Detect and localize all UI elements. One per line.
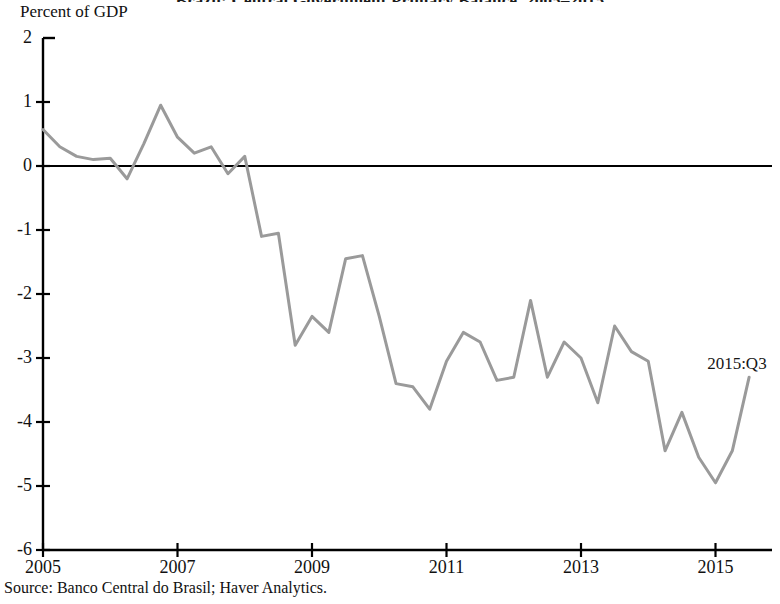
y-axis-tick-label: -6 [0, 540, 32, 558]
y-axis-tick-label: 0 [0, 156, 32, 174]
y-axis-tick-label: 2 [0, 28, 32, 46]
x-axis-tick-label: 2009 [276, 558, 348, 576]
x-axis-tick-label: 2005 [7, 558, 79, 576]
x-axis-tick-label: 2015 [680, 558, 752, 576]
y-axis-tick-label: -5 [0, 476, 32, 494]
y-axis-tick-label: -2 [0, 284, 32, 302]
x-axis-tick-label: 2013 [545, 558, 617, 576]
y-axis-tick-label: -4 [0, 412, 32, 430]
x-axis-tick-label: 2007 [142, 558, 214, 576]
plot-area [0, 0, 780, 604]
y-axis-tick-label: -3 [0, 348, 32, 366]
endpoint-annotation: 2015:Q3 [707, 354, 767, 374]
y-axis-tick-label: -1 [0, 220, 32, 238]
x-axis-tick-label: 2011 [411, 558, 483, 576]
chart-container: Brazil: Central Government Primary Balan… [0, 0, 780, 604]
data-series-line [43, 105, 749, 483]
y-axis-tick-label: 1 [0, 92, 32, 110]
source-note: Source: Banco Central do Brasil; Haver A… [4, 579, 327, 597]
